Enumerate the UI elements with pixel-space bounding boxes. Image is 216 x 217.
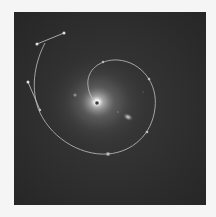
anchor-point-inner-top[interactable] [102, 61, 104, 63]
anchor-point-right-lower[interactable] [146, 131, 149, 134]
galaxy-photo: Galaxy photograph with a spiral bezier p… [14, 12, 206, 205]
star [117, 111, 119, 113]
galaxy-svg [14, 12, 206, 205]
handle-point-top-right[interactable] [63, 32, 66, 35]
anchor-point-right-upper[interactable] [148, 78, 151, 81]
anchor-point-left[interactable] [39, 109, 41, 111]
anchor-point-core[interactable] [95, 101, 99, 105]
anchor-point-bottom[interactable] [107, 153, 110, 156]
handle-point-left[interactable] [27, 81, 30, 84]
image-stage: Galaxy photograph with a spiral bezier p… [0, 0, 216, 217]
handle-point-top-left[interactable] [36, 43, 39, 46]
star [73, 93, 76, 96]
star [142, 91, 144, 93]
